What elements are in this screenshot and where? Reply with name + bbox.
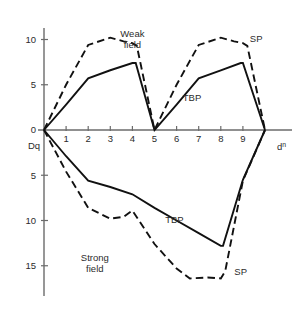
curve-weak-field-tbp: [44, 63, 265, 130]
x-tick-label: 2: [86, 133, 91, 144]
x-tick-label: 3: [108, 133, 113, 144]
y-axis-label: Dq: [28, 140, 40, 151]
x-tick-label: 8: [218, 133, 223, 144]
annotation-strong-field: Strongfield: [81, 252, 109, 274]
y-tick-label: 10: [25, 34, 36, 45]
annotation-line-2: field: [124, 39, 141, 50]
x-axis-label: dn: [277, 141, 286, 153]
curve-strong-field-tbp: [44, 130, 265, 246]
chart-canvas: 123456789 105051015 Dq dn WeakfieldStron…: [0, 0, 308, 320]
annotation-weak-field: Weakfield: [120, 28, 144, 50]
y-tick-label: 0: [31, 124, 36, 135]
cfse-chart-figure: 123456789 105051015 Dq dn WeakfieldStron…: [0, 0, 308, 320]
y-tick-label: 5: [31, 79, 36, 90]
x-tick-label: 4: [130, 133, 135, 144]
annotation-tbp-lower: TBP: [165, 214, 183, 225]
annotation-sp-lower: SP: [234, 266, 247, 277]
x-tick-label: 7: [196, 133, 201, 144]
curve-strong-field-sp: [44, 130, 265, 278]
x-tick-label: 6: [174, 133, 179, 144]
curves-group: [44, 38, 265, 279]
x-tick-label: 5: [152, 133, 157, 144]
annotation-sp-upper: SP: [250, 33, 263, 44]
annotation-line-2: field: [86, 263, 103, 274]
y-tick-label: 15: [25, 260, 36, 271]
annotation-line-1: Strong: [81, 252, 109, 263]
x-tick-label: 1: [63, 133, 68, 144]
y-tick-label: 10: [25, 215, 36, 226]
annotation-line-1: Weak: [120, 28, 144, 39]
x-tick-label: 9: [240, 133, 245, 144]
curve-weak-field-sp: [44, 38, 265, 130]
y-tick-label: 5: [31, 170, 36, 181]
annotation-tbp-upper: TBP: [183, 92, 201, 103]
